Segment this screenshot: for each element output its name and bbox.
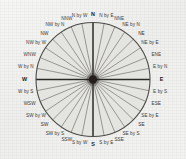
compass-point-label: ESE: [152, 102, 162, 107]
compass-point-label: N: [91, 12, 95, 17]
compass-point-label: E by S: [153, 90, 167, 95]
compass-point-label: W by S: [18, 90, 33, 95]
compass-point-label: N by W: [72, 13, 88, 18]
compass-point-label: SW by S: [46, 131, 65, 136]
compass-point-label: NW: [41, 31, 49, 36]
compass-rose-figure: NN by ENNENE by NNENE by EENEE by NEE by…: [0, 0, 186, 159]
compass-point-label: NNW: [61, 17, 72, 22]
compass-point-label: SSW: [61, 137, 72, 142]
compass-point-label: E: [160, 77, 164, 82]
compass-point-label: WNW: [24, 52, 36, 57]
hub-core: [89, 75, 97, 83]
compass-point-label: E by N: [153, 65, 167, 70]
compass-point-label: SE by E: [141, 113, 158, 118]
compass-point-label: NE: [138, 31, 145, 36]
compass-hub: [87, 73, 100, 86]
compass-point-label: NE by E: [141, 41, 159, 46]
compass-point-label: WSW: [24, 102, 36, 107]
compass-point-label: S: [91, 142, 95, 147]
compass-point-label: S by E: [99, 141, 113, 146]
compass-point-label: SSE: [114, 137, 124, 142]
compass-point-label: NW by N: [45, 23, 64, 28]
compass-point-label: SE by S: [122, 131, 139, 136]
compass-point-label: W: [22, 77, 27, 82]
compass-point-label: NW by W: [26, 41, 46, 46]
compass-point-label: SW: [41, 123, 49, 128]
compass-point-label: SW by W: [26, 113, 46, 118]
compass-point-label: NNE: [114, 17, 124, 22]
compass-point-label: S by W: [72, 141, 87, 146]
compass-rose-diagram: [0, 0, 186, 159]
compass-point-label: N by E: [99, 13, 113, 18]
compass-point-label: W by N: [18, 65, 34, 70]
compass-point-label: SE: [138, 123, 144, 128]
compass-point-label: NE by N: [122, 23, 140, 28]
compass-point-label: ENE: [151, 52, 161, 57]
